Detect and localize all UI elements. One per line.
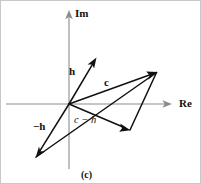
figure-container: Im Re h c −h c − h (c): [0, 0, 201, 184]
vector-label-minus-h: −h: [33, 121, 45, 132]
figure-caption: (c): [81, 170, 92, 180]
vector-minus-h-arrowhead: [36, 147, 46, 158]
vector-c-shaft: [69, 74, 152, 104]
vector-diagram-svg: [1, 1, 201, 184]
real-axis-label: Re: [179, 98, 192, 109]
vector-label-c: c: [104, 77, 109, 88]
vector-h-arrowhead: [88, 58, 97, 69]
vector-label-h: h: [69, 66, 75, 77]
parallelogram-diagonal-edge: [36, 73, 157, 158]
real-axis: [6, 100, 172, 108]
imaginary-axis: [65, 10, 73, 169]
vector-c-minus-h-arrowhead: [119, 124, 130, 132]
vector-label-c-minus-h: c − h: [74, 115, 96, 126]
imaginary-axis-label: Im: [75, 8, 88, 19]
